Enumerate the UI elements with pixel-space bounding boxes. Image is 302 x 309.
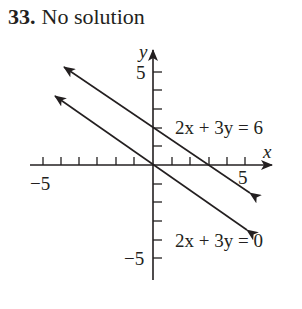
y-axis-label: y bbox=[137, 41, 148, 62]
x-axis-label: x bbox=[262, 141, 272, 162]
graph: y x 5 −5 −5 5 2x + 3y = 6 2x + 3y = 0 bbox=[0, 0, 302, 309]
y-tick-label-neg5: −5 bbox=[124, 248, 144, 269]
x-tick-label-neg5: −5 bbox=[30, 173, 50, 194]
line2-label: 2x + 3y = 0 bbox=[175, 230, 263, 251]
y-tick-label-5: 5 bbox=[136, 62, 146, 83]
line1-label: 2x + 3y = 6 bbox=[175, 117, 263, 138]
x-tick-label-5: 5 bbox=[238, 167, 248, 188]
